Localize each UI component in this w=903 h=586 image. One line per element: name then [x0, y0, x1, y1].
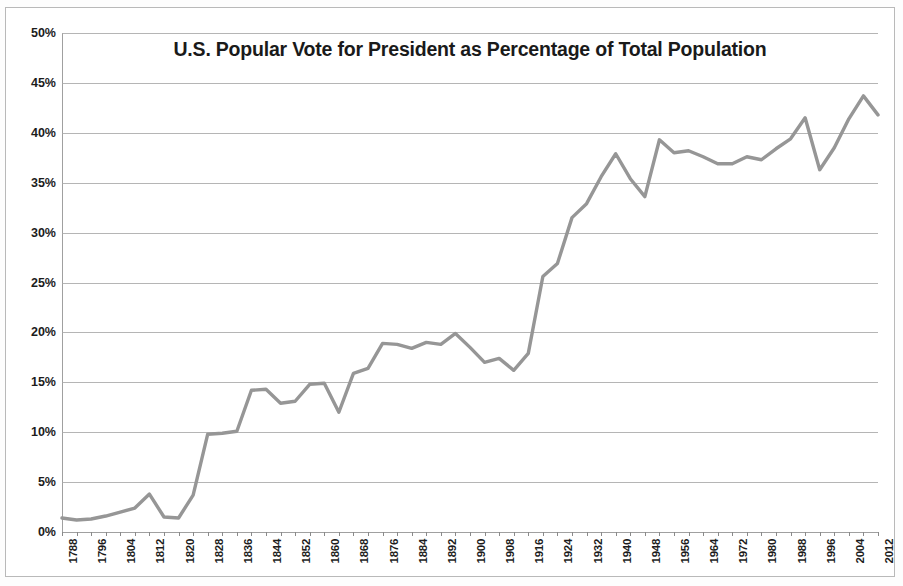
x-tick [106, 532, 107, 536]
x-tick [324, 532, 325, 536]
x-tick [761, 532, 762, 536]
y-tick-label: 30% [12, 226, 56, 240]
x-tick [485, 532, 486, 536]
x-tick [630, 532, 631, 536]
x-tick-label: 2012 [883, 539, 895, 563]
chart-page: U.S. Popular Vote for President as Perce… [0, 0, 903, 586]
x-tick [135, 532, 136, 536]
x-tick [820, 532, 821, 536]
x-tick [805, 532, 806, 536]
x-tick [543, 532, 544, 536]
x-tick-label: 1924 [562, 539, 574, 563]
x-tick-label: 1852 [300, 539, 312, 563]
x-tick-label: 1820 [184, 539, 196, 563]
x-tick [528, 532, 529, 536]
x-tick [718, 532, 719, 536]
y-tick-label: 15% [12, 375, 56, 389]
x-tick-label: 1868 [358, 539, 370, 563]
x-tick [703, 532, 704, 536]
x-tick-label: 1972 [737, 539, 749, 563]
x-tick-label: 1836 [242, 539, 254, 563]
x-tick-label: 1900 [475, 539, 487, 563]
x-tick-label: 1916 [533, 539, 545, 563]
x-tick [776, 532, 777, 536]
x-tick [91, 532, 92, 536]
x-tick [601, 532, 602, 536]
x-tick [62, 532, 63, 536]
x-tick-label: 1988 [796, 539, 808, 563]
y-tick-label: 45% [12, 76, 56, 90]
x-tick-label: 1860 [329, 539, 341, 563]
x-tick [266, 532, 267, 536]
x-tick [251, 532, 252, 536]
y-axis-labels: 0%5%10%15%20%25%30%35%40%45%50% [8, 33, 56, 532]
x-tick [645, 532, 646, 536]
x-tick [353, 532, 354, 536]
x-tick [791, 532, 792, 536]
x-tick [193, 532, 194, 536]
x-tick-label: 1980 [766, 539, 778, 563]
x-tick [310, 532, 311, 536]
x-tick-label: 1892 [446, 539, 458, 563]
x-tick [222, 532, 223, 536]
x-tick [368, 532, 369, 536]
x-tick-label: 1908 [504, 539, 516, 563]
x-axis-ticks [62, 532, 878, 537]
x-tick [426, 532, 427, 536]
x-tick [179, 532, 180, 536]
y-tick-label: 50% [12, 26, 56, 40]
x-tick [834, 532, 835, 536]
y-tick-label: 20% [12, 325, 56, 339]
x-tick [732, 532, 733, 536]
x-axis-labels: 1788179618041812182018281836184418521860… [62, 539, 878, 583]
x-tick [383, 532, 384, 536]
y-tick-label: 10% [12, 425, 56, 439]
x-tick [499, 532, 500, 536]
x-tick [412, 532, 413, 536]
data-series-line [62, 33, 878, 532]
y-tick-label: 5% [12, 475, 56, 489]
x-tick [674, 532, 675, 536]
x-tick [208, 532, 209, 536]
x-tick [397, 532, 398, 536]
x-tick-label: 2004 [854, 539, 866, 563]
x-tick [878, 532, 879, 536]
x-tick-label: 1932 [592, 539, 604, 563]
x-tick [295, 532, 296, 536]
x-tick [689, 532, 690, 536]
x-tick [339, 532, 340, 536]
x-tick [557, 532, 558, 536]
y-tick-label: 35% [12, 176, 56, 190]
x-tick-label: 1996 [825, 539, 837, 563]
x-tick [863, 532, 864, 536]
x-tick [237, 532, 238, 536]
x-tick-label: 1964 [708, 539, 720, 563]
x-tick-label: 1948 [650, 539, 662, 563]
x-tick-label: 1796 [96, 539, 108, 563]
x-tick [441, 532, 442, 536]
x-tick [616, 532, 617, 536]
y-tick-label: 25% [12, 276, 56, 290]
x-tick [747, 532, 748, 536]
x-tick-label: 1940 [621, 539, 633, 563]
x-tick-label: 1884 [417, 539, 429, 563]
x-tick-label: 1812 [154, 539, 166, 563]
x-tick-label: 1956 [679, 539, 691, 563]
x-tick [659, 532, 660, 536]
x-tick-label: 1804 [125, 539, 137, 563]
x-tick [149, 532, 150, 536]
x-tick [164, 532, 165, 536]
x-tick [281, 532, 282, 536]
x-tick [849, 532, 850, 536]
x-tick-label: 1788 [67, 539, 79, 563]
y-tick-label: 0% [12, 525, 56, 539]
x-tick [470, 532, 471, 536]
x-tick-label: 1876 [388, 539, 400, 563]
x-tick [455, 532, 456, 536]
x-tick [587, 532, 588, 536]
x-tick [572, 532, 573, 536]
x-tick-label: 1844 [271, 539, 283, 563]
y-tick-label: 40% [12, 126, 56, 140]
x-tick [77, 532, 78, 536]
x-tick-label: 1828 [213, 539, 225, 563]
